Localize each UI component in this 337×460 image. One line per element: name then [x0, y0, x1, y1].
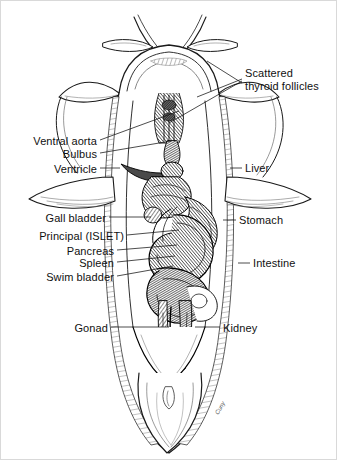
- fish-anatomy-figure: Scatteredthyroid folliclesVentral aortaB…: [0, 0, 337, 460]
- label-principal-islet: Principal (ISLET): [1, 230, 124, 243]
- label-ventral-aorta: Ventral aorta: [1, 135, 97, 148]
- label-scattered-thyroid-follicles-line2: thyroid follicles: [245, 80, 319, 93]
- label-scattered-thyroid-follicles-line1: Scattered: [245, 67, 319, 80]
- label-spleen: Spleen: [1, 257, 114, 270]
- label-stomach: Stomach: [239, 214, 283, 227]
- label-gonad: Gonad: [1, 322, 108, 335]
- organ-gall-bladder: [144, 207, 162, 223]
- label-liver: Liver: [245, 162, 269, 175]
- label-kidney: Kidney: [223, 322, 257, 335]
- label-intestine: Intestine: [253, 257, 295, 270]
- label-bulbus: Bulbus: [1, 148, 97, 161]
- label-gall-bladder: Gall bladder: [1, 212, 106, 225]
- label-swim-bladder: Swim bladder: [1, 271, 114, 284]
- label-ventricle: Ventricle: [1, 163, 97, 176]
- label-scattered-thyroid-follicles: Scatteredthyroid follicles: [245, 67, 319, 92]
- label-pancreas: Pancreas: [1, 245, 114, 258]
